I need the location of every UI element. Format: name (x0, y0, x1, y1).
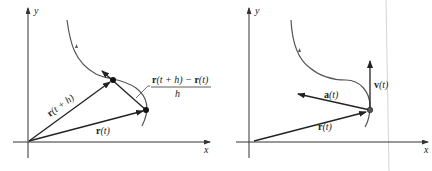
point-r-t (143, 107, 149, 113)
vector-r-t (29, 111, 143, 141)
label-r-t: r(t) (318, 121, 333, 133)
secant-label-numerator: r(t + h) − r(t) (152, 74, 209, 86)
curve (291, 20, 370, 127)
curve (67, 20, 147, 126)
vector-r-t (254, 112, 366, 141)
label-r-t-plus-h: r(t + h) (45, 91, 77, 119)
label-a-t: a(t) (324, 89, 339, 101)
secant-label-denominator: h (175, 88, 180, 99)
x-axis-label: x (203, 144, 209, 155)
y-axis-label: y (33, 5, 39, 16)
point-r-t-plus-h (110, 77, 116, 83)
y-axis-label: y (254, 5, 260, 16)
curve-direction-arrow-icon (298, 48, 301, 52)
left-figure: y x r(t + h) r(t) r(t + h) − r(t) h (13, 5, 211, 158)
diagram-canvas: y x r(t + h) r(t) r(t + h) − r(t) h y x (0, 0, 432, 171)
curve-direction-arrow-icon (75, 44, 78, 48)
point-r-t (367, 107, 373, 113)
label-r-t: r(t) (96, 125, 111, 137)
right-figure: y x r(t) a(t) v(t) (236, 5, 429, 158)
label-v-t: v(t) (374, 79, 389, 91)
x-axis-label: x (423, 144, 429, 155)
